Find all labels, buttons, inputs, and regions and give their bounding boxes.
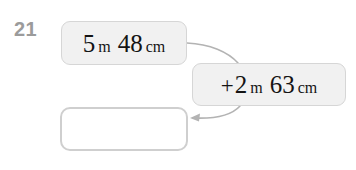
answer-box[interactable]: [60, 107, 188, 151]
first-meters-unit: m: [98, 39, 110, 55]
first-centimeters-value: 48: [118, 31, 143, 56]
first-measurement-expression: 5 m 48 cm: [83, 31, 166, 56]
second-measurement-expression: + 2 m 63 cm: [221, 72, 317, 97]
arrow-first-to-second: [187, 43, 238, 63]
question-number: 21: [14, 19, 37, 39]
first-meters-value: 5: [83, 31, 96, 56]
second-centimeters-unit: cm: [298, 80, 318, 96]
arrow-second-to-answer: [193, 106, 240, 118]
second-measurement-box: + 2 m 63 cm: [192, 63, 346, 106]
arrow-head-icon: [190, 114, 200, 122]
worksheet-canvas: 21 5 m 48 cm + 2 m 63 cm: [0, 0, 356, 170]
second-meters-unit: m: [250, 80, 262, 96]
second-meters-value: 2: [235, 72, 248, 97]
plus-operator: +: [221, 74, 234, 97]
second-centimeters-value: 63: [270, 72, 295, 97]
first-measurement-box: 5 m 48 cm: [61, 21, 187, 65]
first-centimeters-unit: cm: [146, 39, 166, 55]
